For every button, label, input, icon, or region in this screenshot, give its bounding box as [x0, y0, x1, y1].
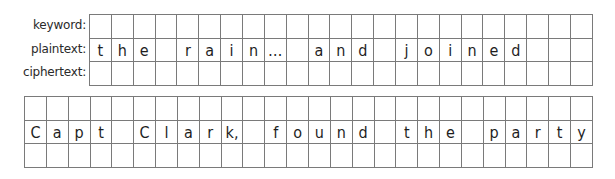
ciphertext-row [90, 62, 593, 86]
ciphertext-cell [549, 62, 571, 86]
message-cell: a [46, 120, 68, 144]
top-blank-cell [483, 97, 505, 121]
top-blank-cell [418, 97, 440, 121]
message-cell [374, 120, 396, 144]
keyword-cell [461, 15, 483, 39]
ciphertext-cell [286, 62, 308, 86]
top-blank-cell [243, 97, 265, 121]
top-blank-cell [374, 97, 396, 121]
keyword-cell [439, 15, 461, 39]
plaintext-cell: … [264, 38, 286, 62]
message-cell: d [352, 120, 374, 144]
top-blank-cell [134, 97, 156, 121]
keyword-cell [264, 15, 286, 39]
keyword-cell [483, 15, 505, 39]
bottom-blank-cell [505, 144, 527, 168]
plaintext-cell: r [177, 38, 199, 62]
keyword-row [90, 15, 593, 39]
ciphertext-cell [177, 62, 199, 86]
message-cell: a [177, 120, 199, 144]
bottom-blank-cell [90, 144, 112, 168]
message-cell [112, 120, 134, 144]
keyword-cell [330, 15, 352, 39]
top-blank-cell [221, 97, 243, 121]
plaintext-cell: h [111, 38, 133, 62]
top-blank-cell [199, 97, 221, 121]
message-cell: t [396, 120, 418, 144]
plaintext-cell: e [483, 38, 505, 62]
ciphertext-cell [199, 62, 221, 86]
plaintext-cell: n [330, 38, 352, 62]
top-blank-cell [46, 97, 68, 121]
bottom-blank-cell [352, 144, 374, 168]
message-cell: k, [221, 120, 243, 144]
bottom-blank-cell [418, 144, 440, 168]
keyword-cell [308, 15, 330, 39]
plaintext-cell: n [461, 38, 483, 62]
top-blank-cell [330, 97, 352, 121]
bottom-blank-cell [265, 144, 287, 168]
message-cell: C [134, 120, 156, 144]
ciphertext-cell [483, 62, 505, 86]
keyword-cell [90, 15, 112, 39]
message-cell: C [25, 120, 47, 144]
plaintext-cell: d [352, 38, 374, 62]
top-blank-cell [90, 97, 112, 121]
bottom-blank-cell [177, 144, 199, 168]
ciphertext-cell [90, 62, 112, 86]
top-blank-cell [308, 97, 330, 121]
top-blank-row [25, 97, 593, 121]
bottom-blank-cell [440, 144, 462, 168]
ciphertext-cell [461, 62, 483, 86]
message-cell: u [308, 120, 330, 144]
keyword-cell [417, 15, 439, 39]
top-blank-cell [112, 97, 134, 121]
bottom-blank-cell [156, 144, 178, 168]
ciphertext-cell [417, 62, 439, 86]
bottom-blank-cell [461, 144, 483, 168]
plaintext-cell: t [90, 38, 112, 62]
ciphertext-label: ciphertext: [0, 61, 86, 85]
plaintext-cell: o [417, 38, 439, 62]
cipher-grid-keyword-plaintext-ciphertext: therain…andjoined [89, 14, 593, 86]
keyword-cell [221, 15, 243, 39]
message-cell: h [418, 120, 440, 144]
bottom-blank-cell [287, 144, 309, 168]
plaintext-cell [374, 38, 396, 62]
keyword-cell [570, 15, 592, 39]
message-cell [243, 120, 265, 144]
plaintext-cell [527, 38, 549, 62]
plaintext-cell: a [308, 38, 330, 62]
plaintext-cell [570, 38, 592, 62]
message-cell: o [287, 120, 309, 144]
keyword-cell [133, 15, 155, 39]
ciphertext-cell [111, 62, 133, 86]
message-row: CaptClark,foundtheparty [25, 120, 593, 144]
message-cell: t [90, 120, 112, 144]
ciphertext-cell [505, 62, 527, 86]
keyword-cell [177, 15, 199, 39]
bottom-blank-cell [134, 144, 156, 168]
ciphertext-cell [396, 62, 418, 86]
bottom-blank-cell [396, 144, 418, 168]
top-blank-cell [549, 97, 571, 121]
top-blank-cell [156, 97, 178, 121]
bottom-blank-cell [25, 144, 47, 168]
message-cell: n [330, 120, 352, 144]
ciphertext-cell [133, 62, 155, 86]
ciphertext-cell [221, 62, 243, 86]
bottom-blank-cell [308, 144, 330, 168]
message-cell: r [199, 120, 221, 144]
keyword-cell [527, 15, 549, 39]
plaintext-cell: a [199, 38, 221, 62]
keyword-cell [111, 15, 133, 39]
bottom-blank-cell [527, 144, 549, 168]
message-cell [461, 120, 483, 144]
top-blank-cell [396, 97, 418, 121]
message-cell: y [571, 120, 593, 144]
bottom-blank-cell [221, 144, 243, 168]
top-blank-cell [461, 97, 483, 121]
ciphertext-cell [243, 62, 265, 86]
message-cell: p [68, 120, 90, 144]
bottom-blank-cell [68, 144, 90, 168]
